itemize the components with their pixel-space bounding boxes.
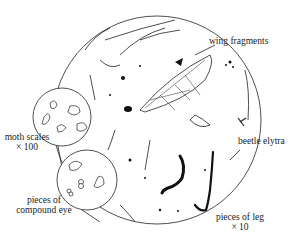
- label-beetle-elytra: beetle elytra: [238, 136, 285, 146]
- leg-line1: pieces of leg: [212, 212, 268, 222]
- label-wing-fragments: wing fragments: [209, 36, 268, 46]
- label-pieces-of-leg: pieces of leg × 10: [212, 212, 268, 232]
- leg-piece-1: [162, 156, 184, 193]
- label-moth-scales: moth scales × 100: [2, 132, 52, 152]
- moth-scales-name: moth scales: [2, 132, 52, 142]
- moth-scales-magnification: × 100: [2, 142, 52, 152]
- leg-piece-2: [195, 152, 213, 210]
- leg-magnification: × 10: [212, 222, 268, 232]
- compound-eye-line1: pieces of: [12, 195, 76, 205]
- label-compound-eye: pieces of compound eye: [12, 195, 76, 215]
- compound-eye-line2: compound eye: [12, 205, 76, 215]
